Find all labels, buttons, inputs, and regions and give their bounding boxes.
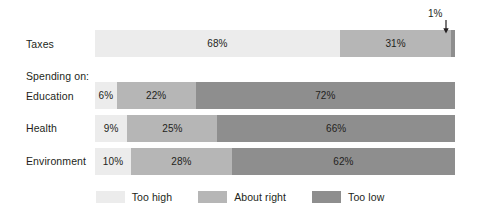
segment-too-high-taxes: 68% [95,30,340,57]
segment-value-label: 62% [333,157,353,167]
segment-about-right-taxes: 31% [340,30,452,57]
segment-value-label: 10% [103,157,123,167]
group-heading-spending-on: Spending on: [26,70,89,82]
segment-too-low-education: 72% [196,82,455,109]
legend-label: Too low [348,191,384,203]
legend-label: Too high [132,191,173,203]
segment-value-label: 68% [207,39,227,49]
legend-swatch-icon [96,191,125,203]
annotation-down-arrow-icon [441,20,451,34]
segment-value-label: 66% [326,124,346,134]
bar-environment: 10%28%62% [95,148,455,175]
legend-item-too-high: Too high [96,191,173,203]
segment-too-low-taxes [451,30,455,57]
stacked-bar-chart: Taxes68%31%Education6%22%72%Health9%25%6… [0,0,480,218]
legend-label: About right [234,191,286,203]
segment-value-label: 25% [162,124,182,134]
segment-value-label: 6% [98,91,113,101]
segment-value-label: 22% [146,91,166,101]
bar-health: 9%25%66% [95,115,455,142]
annotation-1-percent-label: 1% [428,8,442,19]
row-label-environment: Environment [26,155,86,167]
segment-about-right-environment: 28% [131,148,232,175]
row-label-health: Health [26,122,57,134]
segment-about-right-health: 25% [127,115,217,142]
segment-about-right-education: 22% [117,82,196,109]
bar-taxes: 68%31% [95,30,455,57]
segment-too-high-environment: 10% [95,148,131,175]
segment-value-label: 31% [385,39,405,49]
segment-too-low-health: 66% [217,115,455,142]
legend-swatch-icon [198,191,227,203]
legend-item-about-right: About right [198,191,286,203]
legend-swatch-icon [312,191,341,203]
segment-too-low-environment: 62% [232,148,455,175]
segment-too-high-education: 6% [95,82,117,109]
segment-value-label: 72% [315,91,335,101]
segment-value-label: 28% [171,157,191,167]
row-label-taxes: Taxes [26,38,54,50]
legend-item-too-low: Too low [312,191,384,203]
chart-legend: Too highAbout rightToo low [0,189,480,205]
bar-education: 6%22%72% [95,82,455,109]
row-label-education: Education [26,90,74,102]
segment-too-high-health: 9% [95,115,127,142]
segment-value-label: 9% [104,124,119,134]
